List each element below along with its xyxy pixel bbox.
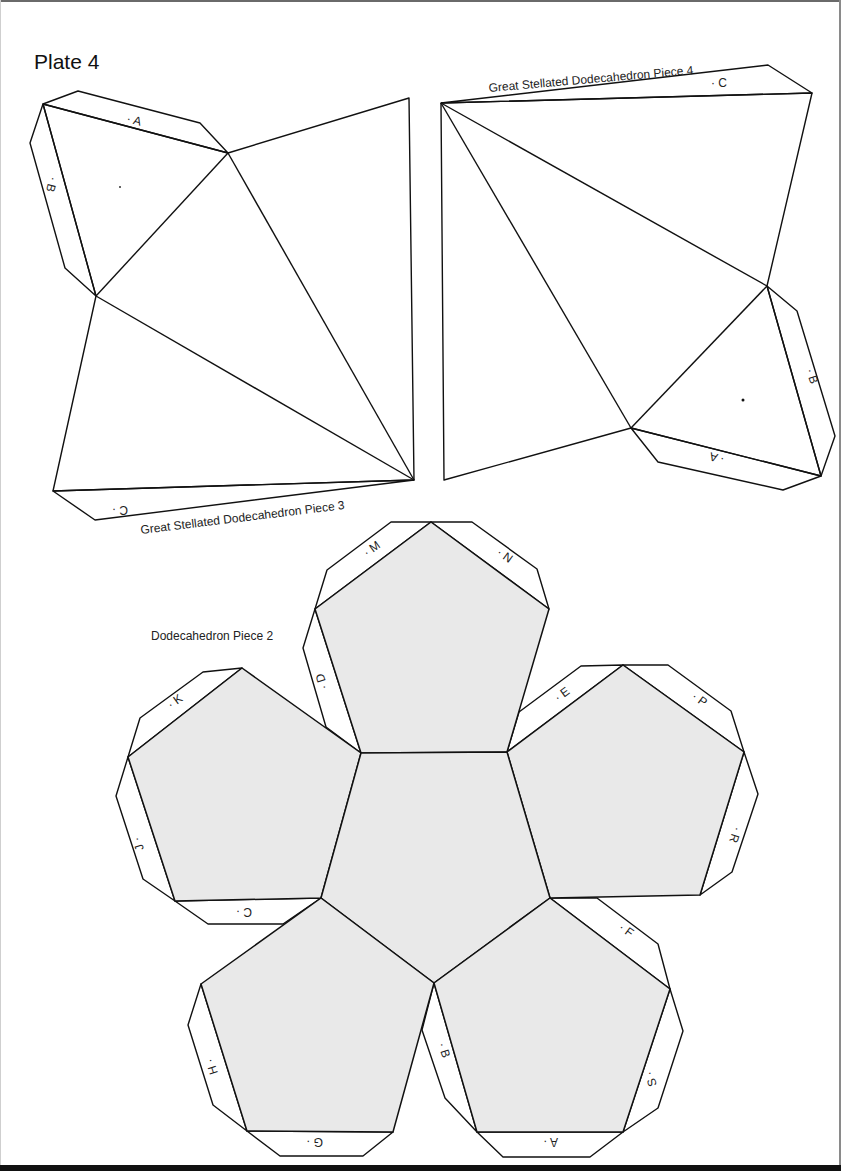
tab-label-c: · C <box>711 76 727 90</box>
tab-label-a: A · <box>543 1135 558 1149</box>
glue-tab-a <box>631 428 821 490</box>
glue-tab-b <box>30 104 96 296</box>
piece4-outline <box>441 93 821 480</box>
nets-drawing: · A · B C · Great Stellated Dodecahedron… <box>0 0 841 1171</box>
center-dot <box>119 186 121 188</box>
gsd-piece-3: · A · B C · Great Stellated Dodecahedron… <box>30 91 414 537</box>
piece3-outline <box>43 98 414 491</box>
tab-label-g: G · <box>306 1135 323 1149</box>
tab-label-c: C · <box>112 503 128 517</box>
dodecahedron-caption: Dodecahedron Piece 2 <box>151 629 273 643</box>
center-dot <box>742 399 745 402</box>
glue-tab-b <box>767 286 835 476</box>
tab-label-c: C · <box>236 905 252 919</box>
dodecahedron-piece-2: · M · N · D · K J · C · · E · P · R · F … <box>116 522 758 1157</box>
gsd-piece-4: · C · B · A Great Stellated Dodecahedron… <box>441 63 835 490</box>
plate-page: Plate 4 · A · B C · Great Stellated Dode… <box>0 0 841 1171</box>
